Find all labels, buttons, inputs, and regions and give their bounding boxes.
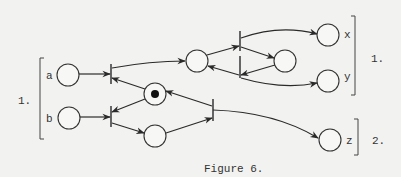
arc-rightmid-t5: [241, 65, 275, 75]
arc-t5-leftmid: [208, 66, 239, 75]
arc-t3-z: [213, 110, 318, 138]
token-icon: [151, 90, 159, 98]
place-z: [319, 129, 341, 151]
place-b-label: b: [46, 113, 53, 125]
place-bottom: [144, 125, 166, 147]
arc-mutex-t1: [112, 78, 145, 89]
arc-mutex-t2: [112, 99, 145, 112]
place-a: [57, 64, 79, 86]
place-right-mid: [274, 50, 296, 72]
place-y: [317, 70, 339, 92]
place-y-label: y: [344, 71, 351, 83]
place-z-label: z: [346, 135, 353, 147]
figure-caption: Figure 6.: [204, 163, 263, 175]
right-bracket-1: [351, 16, 355, 95]
arc-t3-mutex: [166, 91, 212, 106]
arc-leftmid-t4: [207, 46, 239, 55]
arc-bottom-t3: [166, 118, 212, 133]
place-b: [58, 107, 80, 129]
place-x: [317, 24, 339, 46]
right-bracket-2: [354, 119, 358, 155]
place-left-mid: [186, 50, 208, 72]
left-bracket: [40, 58, 44, 139]
arc-t2-bottom: [112, 123, 144, 133]
place-a-label: a: [46, 70, 53, 82]
right-group-label-2: 2.: [372, 135, 385, 147]
right-group-label-1: 1.: [371, 53, 384, 65]
arc-t4-x: [241, 30, 317, 38]
petri-net-diagram: 1. a b x y: [0, 0, 401, 177]
left-group-label: 1.: [18, 95, 31, 107]
place-x-label: x: [344, 29, 351, 41]
arc-t1-leftmid: [112, 61, 185, 68]
arc-t4-rightmid: [241, 47, 274, 58]
arc-t5-y: [241, 78, 317, 86]
